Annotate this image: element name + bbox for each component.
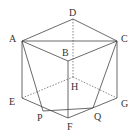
edge-EF xyxy=(22,98,68,118)
edge-BC xyxy=(68,41,117,61)
vertex-labels: ABCDEFGHPQ xyxy=(9,7,128,132)
vertex-label-a: A xyxy=(9,33,17,44)
edge-DC xyxy=(73,19,117,41)
vertex-label-q: Q xyxy=(94,111,102,122)
edge-AD xyxy=(22,19,73,41)
vertex-label-g: G xyxy=(121,98,128,109)
visible-edges xyxy=(22,19,117,118)
vertex-label-d: D xyxy=(69,7,76,18)
vertex-label-b: B xyxy=(62,47,69,58)
cube-diagram: ABCDEFGHPQ xyxy=(0,0,137,133)
vertex-label-c: C xyxy=(121,33,128,44)
edge-CQ xyxy=(93,41,117,108)
edge-AP xyxy=(22,41,43,111)
vertex-label-h: H xyxy=(71,81,78,92)
hidden-edges xyxy=(22,19,117,98)
vertex-label-e: E xyxy=(9,96,15,107)
hidden-edge-HG xyxy=(73,77,117,98)
vertex-label-p: P xyxy=(37,112,43,123)
hidden-edge-EH xyxy=(22,77,73,98)
vertex-label-f: F xyxy=(67,121,73,132)
